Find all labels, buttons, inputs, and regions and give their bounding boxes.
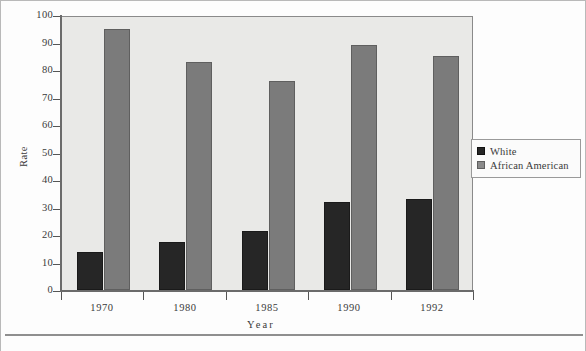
x-axis-line [60,290,474,292]
bar-african-american-1990 [351,45,377,290]
x-tick-label: 1990 [309,302,389,313]
y-axis-labels: 1009080706050403020100 [1,1,53,327]
legend-swatch-white-icon [477,147,485,155]
x-tick-mark [143,292,144,300]
bar-white-1970 [77,252,103,291]
y-tick-label: 30 [7,202,53,213]
bar-chart-figure: Rate 1009080706050403020100 197019801985… [1,1,586,327]
legend-label-white: White [490,146,517,157]
bar-white-1985 [242,231,268,290]
x-tick-mark [61,292,62,300]
y-tick-label: 40 [7,174,53,185]
y-tick-label: 100 [7,9,53,20]
y-axis-line [60,15,62,292]
chart-legend: White African American [471,139,581,178]
x-tick-label: 1992 [392,302,472,313]
y-tick-label: 20 [7,229,53,240]
legend-swatch-african-american-icon [477,161,485,169]
plot-area [61,16,473,291]
bar-white-1990 [324,202,350,290]
y-tick-label: 10 [7,257,53,268]
y-tick-label: 50 [7,147,53,158]
x-tick-label: 1985 [227,302,307,313]
bar-african-american-1992 [433,56,459,290]
page-frame: Rate 1009080706050403020100 197019801985… [0,0,586,351]
x-tick-label: 1980 [145,302,225,313]
y-tick-label: 90 [7,37,53,48]
y-tick-label: 0 [7,284,53,295]
legend-item-white: White [477,144,575,158]
x-tick-mark [226,292,227,300]
bar-african-american-1985 [269,81,295,290]
y-tick-label: 70 [7,92,53,103]
footer-divider [5,334,583,336]
bar-african-american-1980 [186,62,212,290]
x-axis-title: Year [1,319,521,330]
bar-white-1992 [406,199,432,290]
x-tick-mark [473,292,474,300]
legend-item-african-american: African American [477,158,575,172]
y-tick-label: 60 [7,119,53,130]
legend-label-african-american: African American [490,160,569,171]
bar-white-1980 [159,242,185,290]
bar-african-american-1970 [104,29,130,290]
x-tick-mark [391,292,392,300]
y-tick-label: 80 [7,64,53,75]
x-tick-label: 1970 [62,302,142,313]
x-tick-mark [308,292,309,300]
